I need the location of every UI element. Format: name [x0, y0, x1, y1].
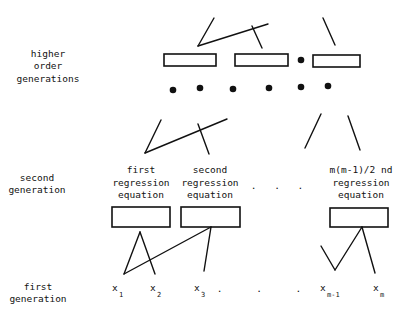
regression-node-second — [181, 207, 240, 227]
svg-text:higher: higher — [31, 48, 66, 59]
higher-order-node — [235, 54, 288, 66]
first-generation-connectors — [124, 227, 375, 274]
node-label-first-regression: first regression equation — [112, 164, 169, 200]
node-label-second-regression: second regression equation — [181, 164, 238, 200]
svg-text:1: 1 — [119, 291, 123, 299]
svg-text:m-1: m-1 — [327, 291, 340, 299]
svg-text:x: x — [373, 282, 379, 293]
regression-node-last — [330, 208, 388, 227]
svg-text:generations: generations — [17, 73, 80, 84]
second-generation-upward-connectors — [145, 114, 360, 154]
svg-text:x: x — [320, 282, 326, 293]
input-xm: x m — [373, 282, 384, 299]
higher-order-node — [164, 54, 216, 66]
svg-text:second: second — [193, 164, 227, 175]
row-label-second-generation: second generation — [8, 172, 65, 195]
svg-text:x: x — [194, 282, 200, 293]
higher-order-connectors-top — [198, 18, 335, 48]
row-label-first-generation: first generation — [9, 281, 66, 304]
second-generation-ellipsis: . . . — [251, 180, 310, 191]
node-label-last-regression: m(m-1)/2 nd regression equation — [330, 164, 393, 200]
svg-text:generation: generation — [8, 184, 65, 195]
svg-text:3: 3 — [201, 291, 205, 299]
svg-text:equation: equation — [118, 189, 164, 200]
row-label-higher-order: higher order generations — [17, 48, 80, 84]
svg-text:equation: equation — [187, 189, 233, 200]
svg-text:regression: regression — [181, 177, 238, 188]
svg-text:x: x — [150, 282, 156, 293]
input-x3: x 3 — [194, 282, 205, 299]
diagram-canvas: higher order generations second generati… — [0, 0, 407, 320]
svg-text:2: 2 — [157, 291, 161, 299]
regression-node-first — [112, 207, 170, 227]
svg-text:first: first — [127, 164, 156, 175]
svg-text:m: m — [380, 291, 384, 299]
svg-text:second: second — [20, 172, 54, 183]
svg-text:m(m-1)/2 nd: m(m-1)/2 nd — [330, 164, 393, 175]
svg-text:order: order — [34, 60, 63, 71]
svg-text:generation: generation — [9, 293, 66, 304]
input-xm-1: x m-1 — [320, 282, 340, 299]
svg-text:regression: regression — [112, 177, 169, 188]
svg-text:x: x — [112, 282, 118, 293]
svg-text:first: first — [24, 281, 53, 292]
input-x2: x 2 — [150, 282, 161, 299]
intermediate-generations-dots — [170, 83, 332, 94]
input-x1: x 1 — [112, 282, 123, 299]
first-generation-ellipsis: . . . — [217, 283, 316, 294]
higher-order-node — [313, 55, 360, 67]
ellipsis-dot — [298, 57, 305, 64]
svg-text:regression: regression — [332, 177, 389, 188]
svg-text:equation: equation — [338, 189, 384, 200]
